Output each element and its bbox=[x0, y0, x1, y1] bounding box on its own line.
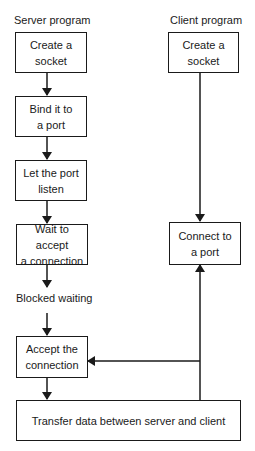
box-text-line: Create a bbox=[30, 37, 72, 53]
box-text-line: socket bbox=[182, 53, 224, 69]
box-text-line: Accept the bbox=[25, 341, 78, 357]
box-text-line: listen bbox=[23, 181, 79, 197]
blocked-waiting-label: Blocked waiting bbox=[16, 292, 92, 304]
box-text-line: Create a bbox=[182, 37, 224, 53]
box-text-line: a connection bbox=[19, 253, 85, 269]
box-text-line: connection bbox=[25, 357, 78, 373]
client-connect-port-box: Connect toa port bbox=[169, 222, 241, 265]
box-text-line: a port bbox=[30, 117, 73, 133]
server-bind-port-box: Bind it toa port bbox=[15, 96, 87, 137]
box-text-line: Connect to bbox=[178, 228, 231, 244]
server-listen-box: Let the portlisten bbox=[15, 160, 87, 201]
server-create-socket-box: Create asocket bbox=[15, 32, 87, 73]
transfer-data-box: Transfer data between server and client bbox=[16, 400, 241, 441]
box-text-line: Wait to accept bbox=[19, 221, 85, 253]
box-text-line: socket bbox=[30, 53, 72, 69]
client-program-label: Client program bbox=[170, 14, 242, 26]
box-text-line: Bind it to bbox=[30, 101, 73, 117]
server-wait-accept-box: Wait to accepta connection bbox=[16, 224, 88, 265]
box-text-line: Transfer data between server and client bbox=[32, 413, 225, 429]
server-accept-connection-box: Accept theconnection bbox=[16, 336, 88, 378]
box-text-line: a port bbox=[178, 244, 231, 260]
client-create-socket-box: Create asocket bbox=[168, 32, 239, 73]
box-text-line: Let the port bbox=[23, 165, 79, 181]
server-program-label: Server program bbox=[14, 14, 90, 26]
